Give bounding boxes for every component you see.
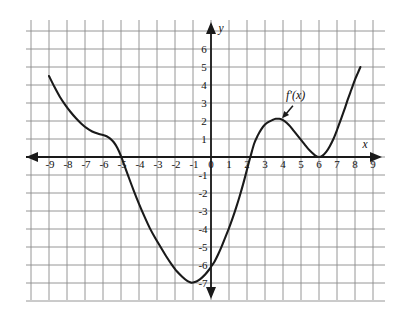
curve-label: f'(x) bbox=[286, 88, 305, 102]
y-tick-label-6: 6 bbox=[201, 43, 207, 55]
x-tick-label-8: 8 bbox=[352, 158, 358, 170]
graph-figure: -9-8-7-6-5-4-3-2-10123456789654321-1-2-3… bbox=[0, 0, 407, 320]
y-tick-label--2: -2 bbox=[198, 187, 207, 199]
y-tick-label-4: 4 bbox=[201, 79, 207, 91]
x-axis-label: x bbox=[361, 138, 368, 150]
y-tick-label--4: -4 bbox=[198, 223, 208, 235]
x-tick-label--8: -8 bbox=[63, 158, 73, 170]
y-axis-label: y bbox=[217, 22, 224, 35]
x-tick-label-1: 1 bbox=[226, 158, 232, 170]
x-tick-label-0: 0 bbox=[208, 158, 214, 170]
x-tick-label-5: 5 bbox=[298, 158, 304, 170]
y-tick-label-3: 3 bbox=[201, 97, 207, 109]
y-tick-label--1: -1 bbox=[198, 169, 207, 181]
x-tick-label--9: -9 bbox=[45, 158, 55, 170]
x-tick-label-4: 4 bbox=[280, 158, 286, 170]
x-tick-label--3: -3 bbox=[153, 158, 163, 170]
coordinate-plane: -9-8-7-6-5-4-3-2-10123456789654321-1-2-3… bbox=[0, 0, 407, 320]
x-tick-label-3: 3 bbox=[262, 158, 268, 170]
y-tick-label--5: -5 bbox=[198, 241, 208, 253]
x-tick-label--6: -6 bbox=[99, 158, 109, 170]
x-tick-label--1: -1 bbox=[189, 158, 198, 170]
x-tick-label-9: 9 bbox=[370, 158, 376, 170]
x-tick-label-7: 7 bbox=[334, 158, 340, 170]
y-tick-label--6: -6 bbox=[198, 259, 208, 271]
x-tick-label--7: -7 bbox=[81, 158, 91, 170]
y-tick-label-2: 2 bbox=[201, 115, 207, 127]
y-tick-label-5: 5 bbox=[201, 61, 207, 73]
y-tick-label--3: -3 bbox=[198, 205, 208, 217]
y-tick-label-1: 1 bbox=[201, 133, 207, 145]
x-tick-label--2: -2 bbox=[171, 158, 180, 170]
x-tick-label--4: -4 bbox=[135, 158, 145, 170]
x-tick-label-6: 6 bbox=[316, 158, 322, 170]
